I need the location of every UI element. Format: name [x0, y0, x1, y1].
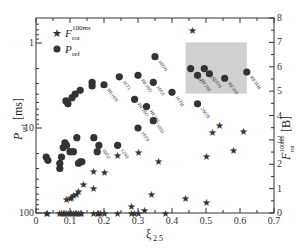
legend-p-ref-main: P — [64, 43, 72, 55]
p-ref-circle-point — [94, 148, 101, 155]
f-rot-star-point: ★ — [161, 208, 170, 219]
scatter-chart: 00.10.20.30.40.50.60.7110100012345678 ★★… — [0, 0, 296, 249]
f-rot-star-point: ★ — [181, 193, 190, 204]
f-rot-star-point: ★ — [79, 179, 88, 190]
p-ref-circle-point — [131, 96, 138, 103]
point-label: 26ON — [200, 107, 211, 120]
f-rot-star-point: ★ — [188, 25, 197, 36]
p-ref-circle-point — [90, 134, 97, 141]
f-rot-star-point: ★ — [89, 183, 98, 194]
p-ref-circle-point — [194, 100, 201, 107]
legend-p-ref-sub: ref — [72, 50, 80, 58]
p-ref-circle-point — [116, 73, 123, 80]
point-label: HE16H — [249, 75, 262, 91]
legend-circle-icon — [54, 46, 61, 53]
p-ref-circle-point — [44, 157, 51, 164]
x-axis-title-main: ξ — [146, 227, 152, 241]
p-ref-circle-point — [58, 154, 65, 161]
p-ref-circle-point — [134, 72, 141, 79]
x-axis-title: ξ 2.5 — [146, 227, 163, 243]
f-rot-star-point: ★ — [229, 145, 238, 156]
y-left-title-main: P — [11, 132, 25, 141]
f-rot-star-point: ★ — [43, 208, 52, 219]
x-tick-label: 0.5 — [200, 215, 213, 226]
y-right-tick-label: 6 — [277, 61, 282, 72]
point-label: 16O2 — [101, 148, 112, 160]
legend-f-rot-sup: 100ms — [72, 24, 91, 32]
f-rot-star-point: ★ — [147, 189, 156, 200]
f-rot-star-point: ★ — [239, 126, 248, 137]
p-ref-circle-point — [64, 100, 71, 107]
p-ref-circle-point — [73, 134, 80, 141]
y-right-axis-title: F rot 100ms [B] — [279, 116, 295, 161]
y-right-title-unit: [B] — [279, 116, 293, 132]
y-right-tick-label: 7 — [277, 36, 282, 47]
f-rot-star-point: ★ — [134, 147, 143, 158]
p-ref-circle-point — [243, 69, 250, 76]
f-rot-star-point: ★ — [77, 208, 86, 219]
y-right-title-sup: 100ms — [279, 135, 285, 152]
f-rot-star-point: ★ — [154, 156, 163, 167]
f-rot-star-point: ★ — [89, 166, 98, 177]
f-rot-star-point: ★ — [215, 120, 224, 131]
y-right-tick-label: 1 — [277, 183, 282, 194]
y-right-tick-label: 5 — [277, 85, 282, 96]
legend: ★ F rot 100ms P ref — [52, 24, 91, 58]
point-label: 16S1 — [155, 123, 165, 135]
point-label: 16T0 — [140, 131, 150, 143]
f-rot-star-point: ★ — [127, 201, 136, 212]
y-right-tick-label: 0 — [277, 207, 282, 218]
f-rot-star-point: ★ — [202, 197, 211, 208]
p-ref-circle-point — [56, 165, 63, 172]
p-ref-circle-point — [221, 75, 228, 82]
p-ref-circle-point — [70, 148, 77, 155]
x-tick-label: 0 — [34, 215, 39, 226]
point-label: 16TH — [174, 95, 185, 108]
point-label: 16T1 — [121, 80, 131, 92]
y-right-tick-label: 8 — [277, 12, 282, 23]
y-right-title-main: F — [279, 152, 293, 161]
p-ref-circle-point — [151, 53, 158, 60]
y-left-title-unit: [ms] — [11, 98, 25, 120]
p-ref-circle-point — [134, 124, 141, 131]
p-ref-circle-point — [201, 65, 208, 72]
y-left-axis-title: P ref [ms] — [11, 98, 28, 141]
legend-f-rot-sub: rot — [72, 34, 80, 42]
x-tick-label: 0.6 — [234, 215, 247, 226]
f-rot-star-point: ★ — [140, 205, 149, 216]
y-left-tick-label: 100 — [19, 207, 34, 218]
legend-f-rot-main: F — [64, 27, 72, 39]
p-ref-circle-point — [150, 79, 157, 86]
y-right-title-sub: rot — [289, 145, 295, 152]
p-ref-circle-point — [114, 142, 121, 149]
f-rot-star-point: ★ — [202, 151, 211, 162]
x-axis-title-sub: 2.5 — [153, 234, 163, 243]
p-ref-circle-point — [95, 142, 102, 149]
y-left-title-sub: ref — [20, 124, 28, 132]
p-ref-circle-point — [78, 158, 85, 165]
p-ref-circle-point — [168, 89, 175, 96]
p-ref-circle-point — [187, 65, 194, 72]
point-label: 16ON — [157, 59, 168, 72]
p-ref-circle-point — [77, 87, 84, 94]
legend-star-icon: ★ — [52, 27, 62, 39]
f-rot-star-point: ★ — [113, 208, 122, 219]
y-left-tick-label: 1 — [29, 37, 34, 48]
p-ref-circle-point — [100, 81, 107, 88]
point-label: HE16N — [106, 87, 119, 103]
f-rot-star-point: ★ — [100, 167, 109, 178]
p-ref-circle-point — [89, 82, 96, 89]
p-ref-circle-point — [63, 142, 70, 149]
point-label: 16O1 — [155, 85, 166, 97]
f-rot-star-point: ★ — [100, 208, 109, 219]
